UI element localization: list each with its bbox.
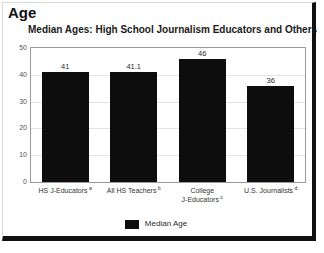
y-axis-tick-label: 20 xyxy=(3,124,27,132)
y-axis-tick-label: 50 xyxy=(3,44,27,52)
chart-title: Median Ages: High School Journalism Educ… xyxy=(28,24,317,36)
x-axis-category-label: U.S. Journalists d xyxy=(233,186,309,195)
y-axis-tick-label: 30 xyxy=(3,98,27,106)
bar-value-label: 41 xyxy=(35,62,95,71)
x-axis-category-label: HS J-Educators a xyxy=(27,186,103,195)
section-heading: Age xyxy=(8,4,36,21)
legend-label-median-age: Median Age xyxy=(145,219,187,229)
y-axis-tick-label: 40 xyxy=(3,71,27,79)
bar-value-label: 46 xyxy=(172,49,232,58)
bar-value-label: 36 xyxy=(241,76,301,85)
bar xyxy=(179,59,226,182)
bar xyxy=(42,72,89,182)
page: Age Median Ages: High School Journalism … xyxy=(0,0,324,253)
y-axis: 01020304050 xyxy=(0,47,27,183)
bar xyxy=(110,72,157,182)
x-axis-category-label: All HS Teachers b xyxy=(96,186,172,195)
legend-swatch-median-age xyxy=(125,220,139,229)
x-axis-category-label: CollegeJ-Educators c xyxy=(164,186,240,204)
bar-value-label: 41.1 xyxy=(104,62,164,71)
chart-legend: Median Age xyxy=(0,219,312,229)
y-axis-tick-label: 10 xyxy=(3,151,27,159)
y-axis-tick-label: 0 xyxy=(3,178,27,186)
bar xyxy=(247,86,294,182)
